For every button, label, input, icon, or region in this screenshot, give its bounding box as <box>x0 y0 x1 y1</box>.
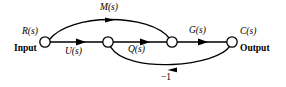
node-summing-junction[interactable] <box>103 37 113 47</box>
node-output[interactable] <box>227 37 237 47</box>
label-output-variable: C(s) <box>240 27 256 37</box>
edge-g-group <box>177 39 227 46</box>
label-edge-m: M(s) <box>100 3 118 13</box>
label-edge-feedback-gain: −1 <box>161 73 171 83</box>
edge-g-arrowhead <box>198 39 208 46</box>
label-input-variable: R(s) <box>22 27 38 37</box>
label-edge-u: U(s) <box>65 47 82 57</box>
node-input[interactable] <box>40 37 50 47</box>
signal-flow-graph-figure: R(s) Input C(s) Output M(s) U(s) Q(s) G(… <box>0 0 286 87</box>
edge-m-group <box>50 17 170 39</box>
edge-m-arrowhead <box>105 17 115 22</box>
node-intermediate[interactable] <box>167 37 177 47</box>
label-input-word: Input <box>14 44 37 54</box>
label-edge-q: Q(s) <box>128 45 145 55</box>
edge-u-group <box>50 39 103 46</box>
edge-u-arrowhead <box>76 39 86 46</box>
label-output-word: Output <box>240 44 270 54</box>
label-edge-g: G(s) <box>189 26 206 36</box>
